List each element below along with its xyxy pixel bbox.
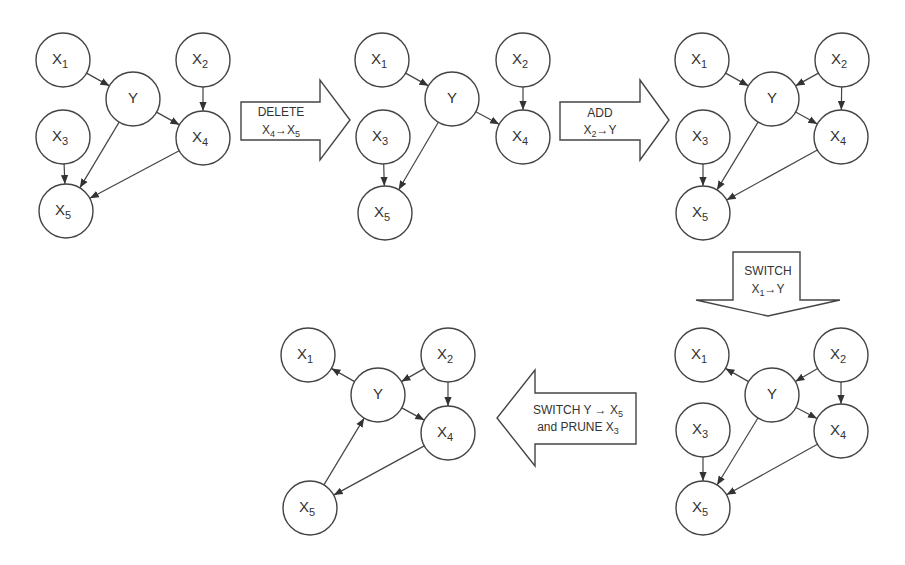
node-x2: X2 bbox=[814, 328, 868, 382]
node-x1: X1 bbox=[281, 328, 335, 382]
node-y: Y bbox=[351, 368, 405, 422]
node-x1: X1 bbox=[675, 328, 729, 382]
node-x5: X5 bbox=[676, 481, 730, 535]
node-x2: X2 bbox=[421, 328, 475, 382]
delete-operation-arrow: DELETE X4→X5 bbox=[241, 80, 350, 160]
node-x3: X3 bbox=[676, 110, 730, 164]
edge-x2-to-y bbox=[796, 73, 819, 86]
edge-y-to-x4 bbox=[796, 407, 817, 418]
node-y: Y bbox=[106, 72, 160, 126]
edge-x1-to-y bbox=[87, 73, 110, 86]
switch-label: SWITCH bbox=[744, 264, 791, 278]
edge-x4-to-x5 bbox=[727, 150, 818, 200]
edge-x4-to-x5 bbox=[90, 151, 179, 199]
node-x2: X2 bbox=[496, 33, 550, 87]
node-x5: X5 bbox=[358, 186, 412, 240]
add-operation-arrow: ADD X2→Y bbox=[560, 80, 669, 160]
switch-edge-label: X1→Y bbox=[751, 282, 784, 298]
node-x3: X3 bbox=[356, 110, 410, 164]
edge-y-to-x1 bbox=[331, 368, 354, 381]
edge-y-to-x4 bbox=[402, 408, 425, 420]
node-x1: X1 bbox=[355, 33, 409, 87]
svg-text:Y: Y bbox=[128, 89, 138, 106]
node-x5: X5 bbox=[39, 184, 93, 238]
node-x4: X4 bbox=[814, 404, 868, 458]
edge-x3-to-x5 bbox=[384, 164, 385, 186]
switch-prune-operation-arrow: SWITCH Y → X5 and PRUNE X3 bbox=[497, 370, 636, 466]
edge-y-to-x4 bbox=[157, 112, 180, 125]
delete-edge-label: X4→X5 bbox=[262, 123, 300, 139]
node-x4: X4 bbox=[496, 110, 550, 164]
edge-x2-to-y bbox=[401, 368, 424, 381]
graph-5: X1YX2X4X5 bbox=[281, 328, 475, 535]
svg-text:Y: Y bbox=[373, 385, 383, 402]
diagram-canvas: DELETE X4→X5 ADD X2→Y SWITCH X1→Y SWITCH… bbox=[0, 0, 905, 565]
svg-text:Y: Y bbox=[447, 89, 457, 106]
add-label: ADD bbox=[587, 106, 613, 120]
node-x1: X1 bbox=[36, 33, 90, 87]
node-x4: X4 bbox=[814, 110, 868, 164]
svg-text:Y: Y bbox=[767, 89, 777, 106]
node-y: Y bbox=[745, 368, 799, 422]
edge-x5-to-y bbox=[324, 418, 364, 485]
edge-x4-to-x5 bbox=[334, 446, 425, 495]
edge-x2-to-y bbox=[795, 369, 817, 382]
edge-x4-to-x5 bbox=[727, 444, 818, 495]
graph-1: X1YX2X4X3X5 bbox=[36, 33, 230, 238]
add-edge-label: X2→Y bbox=[583, 123, 616, 139]
node-x5: X5 bbox=[676, 186, 730, 240]
edge-y-to-x4 bbox=[796, 112, 818, 124]
graph-3: X1YX2X4X3X5 bbox=[675, 33, 869, 240]
node-x4: X4 bbox=[176, 111, 230, 165]
edge-y-to-x4 bbox=[476, 112, 499, 125]
switch-operation-arrow: SWITCH X1→Y bbox=[696, 252, 840, 316]
node-x2: X2 bbox=[176, 33, 230, 87]
node-x3: X3 bbox=[36, 110, 90, 164]
svg-text:Y: Y bbox=[767, 385, 777, 402]
node-x5: X5 bbox=[283, 481, 337, 535]
graph-4: X1YX2X4X3X5 bbox=[675, 328, 868, 535]
switch-prune-label-2: and PRUNE X3 bbox=[537, 420, 619, 436]
node-x2: X2 bbox=[815, 33, 869, 87]
edge-x3-to-x5 bbox=[64, 164, 65, 184]
node-x4: X4 bbox=[421, 406, 475, 460]
delete-label: DELETE bbox=[258, 105, 305, 119]
edge-y-to-x1 bbox=[725, 368, 748, 381]
switch-prune-label-1: SWITCH Y → X5 bbox=[533, 403, 623, 419]
edge-x1-to-y bbox=[726, 73, 749, 86]
node-y: Y bbox=[745, 72, 799, 126]
node-x1: X1 bbox=[675, 33, 729, 87]
node-y: Y bbox=[425, 72, 479, 126]
graph-2: X1YX2X4X3X5 bbox=[355, 33, 550, 240]
edge-x1-to-y bbox=[406, 73, 429, 86]
node-x3: X3 bbox=[676, 403, 730, 457]
